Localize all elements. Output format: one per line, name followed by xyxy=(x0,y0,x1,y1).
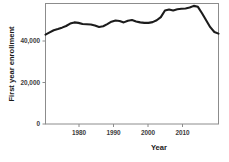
line-chart: 0 20,000 40,000 1980 1990 2000 2010 Year… xyxy=(0,0,229,162)
plot-frame xyxy=(46,4,219,125)
x-tick-label-1980: 1980 xyxy=(72,129,87,136)
enrollment-line xyxy=(46,6,219,35)
x-tick-label-2000: 2000 xyxy=(141,129,156,136)
y-axis-title: First year enrollment xyxy=(7,26,16,102)
y-tick-label-20000: 20,000 xyxy=(20,79,40,87)
y-tick-label-40000: 40,000 xyxy=(20,37,40,45)
x-tick-label-2010: 2010 xyxy=(175,129,190,136)
x-tick-label-1990: 1990 xyxy=(106,129,121,136)
x-axis-title: Year xyxy=(151,143,167,152)
chart-figure: 0 20,000 40,000 1980 1990 2000 2010 Year… xyxy=(0,0,229,162)
y-tick-label-0: 0 xyxy=(36,120,40,127)
